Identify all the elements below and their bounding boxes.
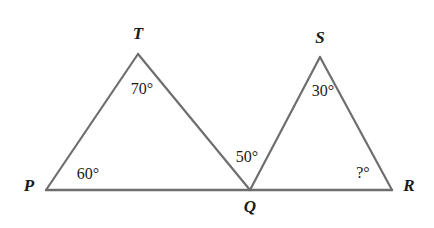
geometry-diagram: P T Q S R 60° 70° 50° 30° ?° — [0, 0, 434, 228]
angle-label-P: 60° — [77, 165, 99, 182]
vertex-label-S: S — [315, 28, 324, 47]
vertex-label-P: P — [23, 176, 35, 195]
vertex-label-R: R — [402, 176, 414, 195]
geometry-canvas: P T Q S R 60° 70° 50° 30° ?° — [0, 0, 434, 228]
angle-label-R: ?° — [356, 164, 370, 181]
segment-QS — [250, 57, 320, 190]
segment-TQ — [138, 54, 250, 190]
vertex-label-Q: Q — [244, 197, 256, 216]
angle-label-T: 70° — [131, 80, 153, 97]
angle-label-Q: 50° — [236, 148, 258, 165]
vertex-label-T: T — [133, 24, 144, 43]
angle-label-S: 30° — [312, 82, 334, 99]
